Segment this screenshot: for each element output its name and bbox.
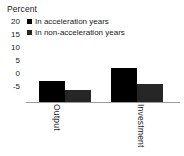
legend-swatch-icon (27, 19, 32, 24)
legend-item-non-acceleration: In non-acceleration years (27, 27, 125, 38)
category-label-output: Output (52, 104, 62, 131)
legend-item-acceleration: In acceleration years (27, 16, 125, 27)
y-tick-label-0: 0 (0, 70, 20, 78)
y-tick-label-5: 5 (0, 57, 20, 65)
zero-baseline (26, 102, 180, 103)
plot-area (26, 42, 180, 103)
legend-item-label: In acceleration years (35, 17, 109, 26)
y-tick-label-minus-5: -5 (0, 83, 20, 91)
bar-output-acceleration (39, 81, 65, 102)
y-tick-label-15: 15 (0, 31, 20, 39)
bar-investment-acceleration (111, 68, 137, 102)
bar-investment-non-acceleration (137, 84, 163, 102)
y-tick-label-10: 10 (0, 44, 20, 52)
legend-item-label: In non-acceleration years (35, 28, 125, 37)
y-tick-label-20: 20 (0, 18, 20, 26)
legend-swatch-icon (27, 30, 32, 35)
category-label-investment: Investment (136, 104, 146, 148)
bar-output-non-acceleration (65, 90, 91, 102)
bar-chart: Percent 20 15 10 5 0 -5 In acceleration … (0, 0, 184, 156)
legend: In acceleration years In non-acceleratio… (27, 16, 125, 38)
y-axis-unit-label: Percent (7, 4, 37, 14)
